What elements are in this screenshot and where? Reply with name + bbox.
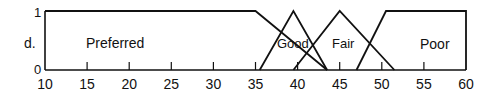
x-tick-label: 25	[164, 76, 180, 92]
x-tick-label: 20	[121, 76, 137, 92]
x-tick-label: 60	[458, 76, 474, 92]
x-tick-label: 40	[290, 76, 306, 92]
x-tick-label: 35	[248, 76, 264, 92]
x-tick-label: 50	[374, 76, 390, 92]
label-fair: Fair	[332, 36, 355, 51]
x-tick-labels: 1015202530354045505560	[37, 76, 474, 92]
labels: d. 1 0 Preferred Good Fair Poor	[24, 5, 450, 77]
label-good: Good	[277, 36, 309, 51]
x-tick-label: 10	[37, 76, 53, 92]
y-tick-1: 1	[34, 5, 41, 20]
label-poor: Poor	[420, 36, 450, 52]
y-axis-label: d.	[24, 35, 36, 51]
x-tick-label: 55	[416, 76, 432, 92]
label-preferred: Preferred	[86, 35, 144, 51]
membership-chart: d. 1 0 Preferred Good Fair Poor 10152025…	[0, 0, 496, 95]
x-tick-label: 30	[206, 76, 222, 92]
x-tick-label: 15	[79, 76, 95, 92]
y-tick-0: 0	[34, 62, 41, 77]
x-tick-label: 45	[332, 76, 348, 92]
